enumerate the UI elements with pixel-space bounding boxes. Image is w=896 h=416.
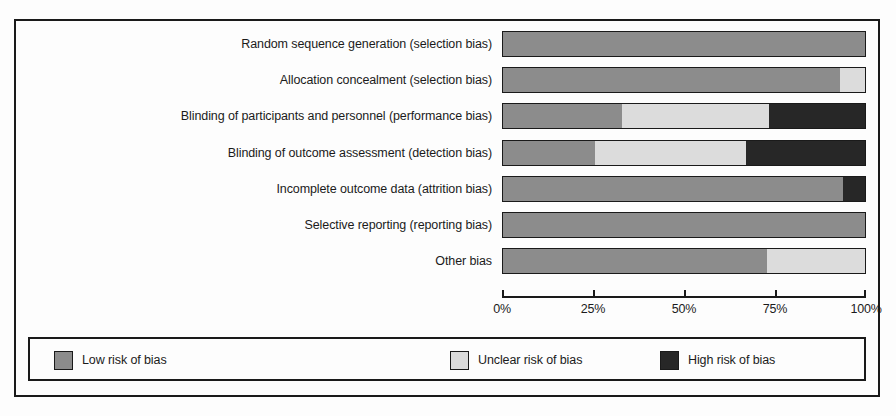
category-label: Other bias bbox=[435, 248, 492, 274]
bar-row: Incomplete outcome data (attrition bias) bbox=[0, 176, 492, 202]
category-label: Blinding of outcome assessment (detectio… bbox=[228, 140, 492, 166]
bar-segment-low-risk-of-bias bbox=[503, 249, 767, 273]
stacked-bar bbox=[502, 103, 866, 129]
stacked-bar bbox=[502, 248, 866, 274]
bar-segment-unclear-risk-of-bias bbox=[595, 141, 745, 165]
bar-segment-low-risk-of-bias bbox=[503, 32, 865, 56]
x-axis-tick bbox=[684, 290, 686, 298]
bar-row: Selective reporting (reporting bias) bbox=[0, 212, 492, 238]
category-label: Allocation concealment (selection bias) bbox=[280, 67, 492, 93]
bar-segment-low-risk-of-bias bbox=[503, 104, 622, 128]
bar-segment-unclear-risk-of-bias bbox=[622, 104, 769, 128]
bar-row: Random sequence generation (selection bi… bbox=[0, 31, 492, 57]
bar-segment-unclear-risk-of-bias bbox=[840, 68, 865, 92]
stacked-bar bbox=[502, 67, 866, 93]
bar-segment-unclear-risk-of-bias bbox=[767, 249, 865, 273]
bar-segment-high-risk-of-bias bbox=[746, 141, 865, 165]
legend-label: High risk of bias bbox=[688, 353, 775, 367]
x-axis-tick bbox=[593, 290, 595, 298]
category-label: Selective reporting (reporting bias) bbox=[305, 212, 492, 238]
x-axis-tick-label: 75% bbox=[763, 302, 787, 316]
x-axis-tick bbox=[502, 290, 504, 298]
legend-label: Unclear risk of bias bbox=[478, 353, 582, 367]
stacked-bar bbox=[502, 31, 866, 57]
stacked-bar bbox=[502, 176, 866, 202]
category-label: Incomplete outcome data (attrition bias) bbox=[276, 176, 492, 202]
bar-row: Blinding of outcome assessment (detectio… bbox=[0, 140, 492, 166]
bar-segment-low-risk-of-bias bbox=[503, 68, 840, 92]
bar-segment-low-risk-of-bias bbox=[503, 141, 595, 165]
legend-entry: Low risk of bias bbox=[54, 350, 167, 370]
x-axis-tick-label: 25% bbox=[581, 302, 605, 316]
stacked-bar bbox=[502, 140, 866, 166]
category-label: Random sequence generation (selection bi… bbox=[241, 31, 492, 57]
risk-of-bias-figure: Random sequence generation (selection bi… bbox=[0, 0, 896, 416]
bar-segment-high-risk-of-bias bbox=[769, 104, 865, 128]
legend-swatch-icon bbox=[54, 351, 73, 370]
legend: Low risk of biasUnclear risk of biasHigh… bbox=[28, 337, 866, 381]
bar-segment-high-risk-of-bias bbox=[843, 177, 865, 201]
bar-row: Blinding of participants and personnel (… bbox=[0, 103, 492, 129]
bar-segment-low-risk-of-bias bbox=[503, 213, 865, 237]
stacked-bar bbox=[502, 212, 866, 238]
legend-entry: Unclear risk of bias bbox=[450, 350, 582, 370]
bar-row: Other bias bbox=[0, 248, 492, 274]
x-axis: 0%25%50%75%100% bbox=[502, 296, 866, 297]
category-label: Blinding of participants and personnel (… bbox=[181, 103, 492, 129]
x-axis-tick bbox=[864, 290, 866, 298]
x-axis-tick-label: 100% bbox=[850, 302, 881, 316]
x-axis-tick-label: 50% bbox=[672, 302, 696, 316]
legend-label: Low risk of bias bbox=[82, 353, 167, 367]
x-axis-tick-label: 0% bbox=[493, 302, 511, 316]
bar-segment-low-risk-of-bias bbox=[503, 177, 843, 201]
bar-row: Allocation concealment (selection bias) bbox=[0, 67, 492, 93]
x-axis-tick bbox=[775, 290, 777, 298]
legend-entry: High risk of bias bbox=[660, 350, 775, 370]
legend-swatch-icon bbox=[450, 351, 469, 370]
legend-swatch-icon bbox=[660, 351, 679, 370]
